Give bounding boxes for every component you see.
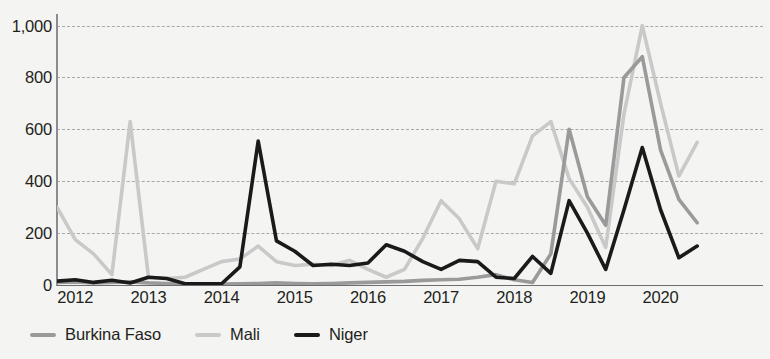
legend-item-burkina-faso[interactable]: Burkina Faso: [30, 325, 161, 344]
chart-legend: Burkina FasoMaliNiger: [30, 325, 402, 344]
y-tick-label-800: 800: [0, 68, 52, 87]
series-line-niger: [57, 141, 697, 284]
legend-label: Niger: [329, 325, 368, 344]
y-tick-label-400: 400: [0, 172, 52, 191]
y-tick-label-0: 0: [0, 276, 52, 295]
series-line-burkina-faso: [57, 57, 697, 284]
legend-item-mali[interactable]: Mali: [195, 325, 260, 344]
x-tick-label-2017: 2017: [423, 288, 459, 307]
y-tick-label-200: 200: [0, 224, 52, 243]
x-tick-label-2012: 2012: [57, 288, 93, 307]
y-tick-label-1000: 1,000: [0, 16, 52, 35]
series-line-mali: [57, 26, 697, 279]
gridline-0: [57, 285, 763, 286]
legend-label: Burkina Faso: [65, 325, 161, 344]
legend-swatch-icon: [195, 333, 221, 337]
x-tick-label-2014: 2014: [204, 288, 240, 307]
x-tick-label-2016: 2016: [350, 288, 386, 307]
legend-item-niger[interactable]: Niger: [294, 325, 368, 344]
x-tick-label-2020: 2020: [643, 288, 679, 307]
y-tick-label-600: 600: [0, 120, 52, 139]
legend-swatch-icon: [294, 333, 320, 337]
series-lines: [57, 10, 763, 285]
legend-label: Mali: [230, 325, 260, 344]
x-tick-label-2018: 2018: [496, 288, 532, 307]
chart-figure: 02004006008001,000 201220132014201520162…: [0, 0, 770, 359]
legend-swatch-icon: [30, 333, 56, 337]
x-tick-label-2015: 2015: [277, 288, 313, 307]
x-axis-tick-labels: 201220132014201520162017201820192020: [57, 288, 763, 312]
x-tick-label-2019: 2019: [569, 288, 605, 307]
plot-area: [57, 10, 763, 285]
x-tick-label-2013: 2013: [130, 288, 166, 307]
